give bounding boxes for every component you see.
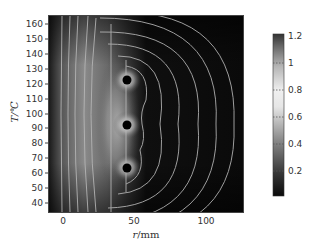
svg-text:70: 70 xyxy=(32,153,44,163)
y-axis-label: T/℃ xyxy=(9,101,20,122)
heatmap-plot-area xyxy=(49,12,243,236)
svg-text:80: 80 xyxy=(32,138,44,148)
svg-text:1.2: 1.2 xyxy=(288,31,302,41)
svg-text:150: 150 xyxy=(26,34,43,44)
svg-text:60: 60 xyxy=(32,168,44,178)
colorbar-tick-labels: 1.2 1 0.8 0.6 0.4 0.2 xyxy=(288,31,303,176)
svg-text:0.6: 0.6 xyxy=(288,112,303,122)
svg-text:0.4: 0.4 xyxy=(288,139,303,149)
svg-text:100: 100 xyxy=(26,109,43,119)
x-axis-label: r/mm xyxy=(132,229,160,240)
svg-text:100: 100 xyxy=(197,216,214,226)
svg-text:1: 1 xyxy=(288,58,294,68)
svg-text:0: 0 xyxy=(60,216,66,226)
svg-text:40: 40 xyxy=(32,198,44,208)
y-axis xyxy=(45,24,48,203)
svg-text:160: 160 xyxy=(26,19,43,29)
colorbar xyxy=(273,34,284,196)
svg-text:130: 130 xyxy=(26,64,43,74)
svg-text:50: 50 xyxy=(128,216,140,226)
svg-text:140: 140 xyxy=(26,49,43,59)
svg-text:110: 110 xyxy=(26,94,43,104)
svg-text:0.8: 0.8 xyxy=(288,85,303,95)
svg-text:90: 90 xyxy=(32,123,44,133)
hole-marker-bottom xyxy=(123,164,132,173)
svg-text:0.2: 0.2 xyxy=(288,166,302,176)
y-tick-labels: 160 150 140 130 120 110 100 90 80 70 60 … xyxy=(26,19,43,208)
x-tick-labels: 0 50 100 xyxy=(60,216,215,226)
hole-marker-middle xyxy=(123,121,132,130)
figure: 160 150 140 130 120 110 100 90 80 70 60 … xyxy=(0,0,310,247)
hole-marker-top xyxy=(123,76,132,85)
svg-text:50: 50 xyxy=(32,183,44,193)
svg-text:120: 120 xyxy=(26,79,43,89)
